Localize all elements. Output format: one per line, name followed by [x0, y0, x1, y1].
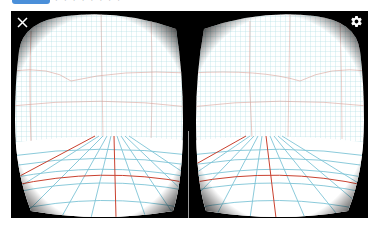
- bottom-margin: [0, 218, 377, 229]
- right-eye-view: [190, 11, 368, 218]
- eye-divider: [188, 131, 189, 218]
- left-lens-scene: [11, 11, 189, 218]
- header-button[interactable]: [12, 0, 50, 4]
- top-toolbar-cropped: · · · · · · · ·: [0, 0, 377, 11]
- header-text: · · · · · · · ·: [55, 0, 122, 5]
- vr-stereo-viewport[interactable]: [11, 11, 368, 218]
- close-icon[interactable]: [15, 15, 29, 29]
- right-lens-scene: [190, 11, 368, 218]
- gear-icon[interactable]: [349, 14, 364, 29]
- left-eye-view: [11, 11, 189, 218]
